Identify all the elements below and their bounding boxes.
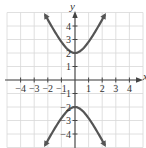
x-tick-label: −3 [29,83,40,94]
x-tick-label: 1 [86,83,91,94]
y-tick-label: −4 [60,129,71,140]
axes [5,11,143,148]
y-tick-label: 4 [66,21,71,32]
x-axis-arrow-icon [136,77,143,82]
y-tick-label: −3 [60,115,71,126]
hyperbola-chart: −4−3−2−11234−4−3−2−11234 y x [0,0,146,148]
y-axis-label: y [69,0,75,12]
x-tick-label: 3 [113,83,118,94]
x-axis-label: x [142,70,146,82]
y-tick-label: 1 [66,61,71,72]
x-tick-label: −4 [15,83,26,94]
y-tick-label: 3 [66,34,71,45]
y-tick-label: 2 [66,48,71,59]
y-tick-label: −1 [60,88,71,99]
x-tick-label: −2 [42,83,53,94]
y-axis-arrow-icon [72,11,77,18]
y-tick-label: −2 [60,102,71,113]
x-tick-label: 4 [127,83,132,94]
x-tick-label: 2 [100,83,105,94]
